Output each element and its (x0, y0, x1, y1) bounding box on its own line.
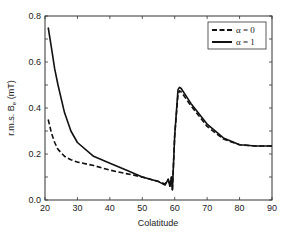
x-tick-label: 90 (267, 203, 277, 213)
x-tick-label: 70 (202, 203, 212, 213)
x-tick-label: 30 (72, 203, 82, 213)
x-axis-label: Colatitude (138, 218, 179, 228)
legend-label-alpha-1: α = 1 (236, 37, 255, 47)
x-tick-label: 20 (40, 203, 50, 213)
y-tick-label: 0.4 (28, 103, 41, 113)
x-tick-labels: 2030405060708090 (40, 203, 277, 213)
x-tick-label: 50 (137, 203, 147, 213)
legend-label-alpha-0: α = 0 (236, 25, 255, 35)
y-tick-labels: 0.00.20.40.60.8 (28, 11, 41, 205)
y-tick-label: 0.2 (28, 149, 41, 159)
y-axis-label: r.m.s. Be (mT) (6, 80, 17, 135)
x-tick-label: 40 (105, 203, 115, 213)
x-tick-label: 60 (170, 203, 180, 213)
y-tick-label: 0.0 (28, 195, 41, 205)
legend: α = 0 α = 1 (208, 22, 266, 49)
y-tick-label: 0.6 (28, 57, 41, 67)
series-alpha-1-line (48, 28, 272, 190)
x-tick-label: 80 (235, 203, 245, 213)
line-chart: 2030405060708090 0.00.20.40.60.8 Colatit… (0, 0, 288, 236)
series-alpha-0-line (48, 91, 272, 190)
series-layer (48, 28, 272, 190)
y-tick-label: 0.8 (28, 11, 41, 21)
